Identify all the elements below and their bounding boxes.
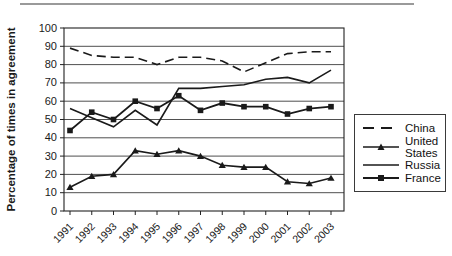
legend-label-france: France <box>405 172 441 184</box>
x-tick-label: 1991 <box>50 220 75 245</box>
data-point-square <box>198 108 204 114</box>
legend-label-china: China <box>405 122 435 134</box>
y-axis-title: Percentage of times in agreement <box>5 27 17 211</box>
y-tick-label: 20 <box>45 168 57 180</box>
x-tick-label: 1994 <box>116 220 141 245</box>
data-point-square <box>154 106 160 112</box>
y-tick-label: 10 <box>45 186 57 198</box>
x-tick-label: 1998 <box>203 220 228 245</box>
y-tick-label: 80 <box>45 58 57 70</box>
data-point-triangle <box>327 175 334 181</box>
legend-item-france: France <box>362 172 439 184</box>
x-tick-label: 1997 <box>181 220 206 245</box>
data-point-square <box>67 128 73 134</box>
legend-item-united-states: United States <box>362 135 439 159</box>
y-tick-label: 60 <box>45 95 57 107</box>
legend-item-russia: Russia <box>362 159 439 171</box>
y-tick-label: 100 <box>39 22 57 34</box>
data-point-square <box>132 98 138 104</box>
legend-label-russia: Russia <box>405 159 440 171</box>
y-tick-label: 30 <box>45 150 57 162</box>
china-dashed-line-icon <box>362 123 400 133</box>
y-tick-label: 50 <box>45 113 57 125</box>
data-point-square <box>89 109 95 115</box>
chart-legend: China United States Russia France <box>354 114 446 192</box>
x-tick-label: 2001 <box>268 220 293 245</box>
data-point-square <box>306 106 312 112</box>
y-tick-label: 70 <box>45 76 57 88</box>
y-tick-label: 90 <box>45 40 57 52</box>
united-states-triangle-line-icon <box>362 142 400 152</box>
x-tick-label: 2003 <box>311 220 336 245</box>
legend-label-united-states: United States <box>405 135 439 159</box>
data-point-square <box>328 104 334 110</box>
x-tick-label: 1995 <box>137 220 162 245</box>
y-tick-label: 0 <box>51 205 57 217</box>
russia-solid-line-icon <box>362 160 400 170</box>
y-tick-label: 40 <box>45 131 57 143</box>
x-tick-label: 1993 <box>94 220 119 245</box>
data-point-square <box>111 117 117 123</box>
data-point-square <box>285 111 291 117</box>
data-point-square <box>219 100 225 106</box>
legend-item-china: China <box>362 122 439 134</box>
x-tick-label: 1996 <box>159 220 184 245</box>
data-point-square <box>176 93 182 99</box>
data-point-square <box>263 104 269 110</box>
x-tick-label: 1992 <box>72 220 97 245</box>
x-tick-label: 1999 <box>224 220 249 245</box>
data-point-square <box>241 104 247 110</box>
x-tick-label: 2002 <box>290 220 315 245</box>
x-tick-label: 2000 <box>246 220 271 245</box>
series-line-china <box>70 48 331 72</box>
data-point-triangle <box>66 184 73 190</box>
france-square-line-icon <box>362 173 400 183</box>
